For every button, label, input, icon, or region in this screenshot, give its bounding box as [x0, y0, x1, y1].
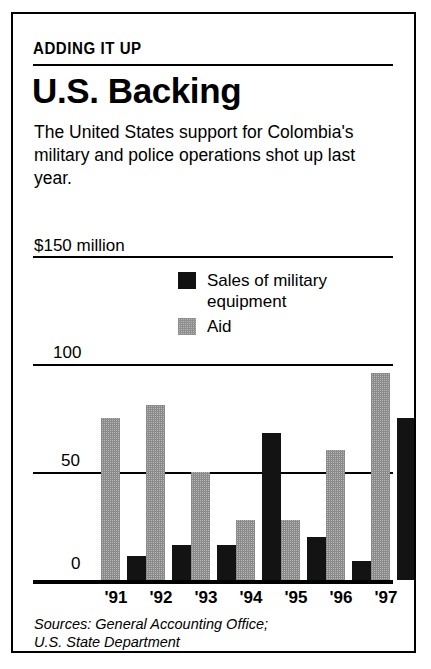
bar-sales-97 [397, 418, 416, 580]
infographic-panel: ADDING IT UP U.S. Backing The United Sta… [11, 12, 416, 653]
x-label-97: '97 [361, 588, 411, 608]
bar-aid-94 [236, 520, 255, 580]
source-note: Sources: General Accounting Office; U.S.… [34, 615, 394, 651]
x-label-91: '91 [91, 588, 141, 608]
x-label-95: '95 [271, 588, 321, 608]
x-label-94: '94 [226, 588, 276, 608]
x-label-92: '92 [136, 588, 186, 608]
bar-sales-91 [127, 556, 146, 580]
bar-aid-93 [191, 472, 210, 580]
bar-sales-92 [172, 545, 191, 580]
bar-aid-95 [281, 520, 300, 580]
bar-aid-92 [146, 405, 165, 580]
x-label-93: '93 [181, 588, 231, 608]
y-axis-top-label: $150 million [34, 236, 125, 256]
x-label-96: '96 [316, 588, 366, 608]
bar-sales-94 [262, 433, 281, 580]
axis-baseline [33, 580, 393, 584]
bar-sales-95 [307, 537, 326, 580]
bar-aid-97 [371, 373, 390, 580]
bar-sales-96 [352, 561, 371, 580]
plot-area [33, 256, 393, 580]
bar-chart: $150 million 100 50 0 Sales of military … [13, 14, 416, 653]
bar-aid-91 [101, 418, 120, 580]
bar-sales-93 [217, 545, 236, 580]
bar-aid-96 [326, 450, 345, 580]
